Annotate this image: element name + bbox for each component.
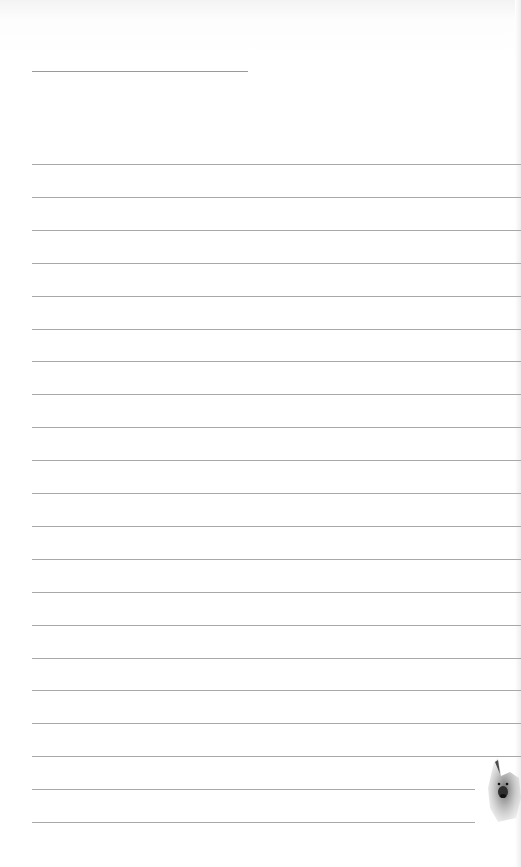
paper-background xyxy=(0,0,521,867)
ruled-line xyxy=(32,493,521,494)
ruled-line xyxy=(32,592,521,593)
ruled-line xyxy=(32,690,521,691)
ruled-line xyxy=(32,329,521,330)
paper-edge-shadow xyxy=(515,0,521,867)
ruled-line xyxy=(32,658,521,659)
ruled-line xyxy=(32,460,521,461)
ruled-line xyxy=(32,526,521,527)
ruled-line xyxy=(32,361,521,362)
ruled-line xyxy=(32,197,521,198)
ruled-line xyxy=(32,756,521,757)
ruled-line xyxy=(32,559,521,560)
ruled-line xyxy=(32,263,521,264)
ruled-line xyxy=(32,822,475,823)
ruled-line xyxy=(32,230,521,231)
ruled-line xyxy=(32,394,521,395)
ruled-line xyxy=(32,164,521,165)
ruled-line xyxy=(32,296,521,297)
title-line xyxy=(32,71,248,72)
ruled-line xyxy=(32,789,475,790)
ruled-line xyxy=(32,723,521,724)
ruled-line xyxy=(32,427,521,428)
ruled-line xyxy=(32,625,521,626)
german-shepherd-dog-icon xyxy=(486,758,521,823)
